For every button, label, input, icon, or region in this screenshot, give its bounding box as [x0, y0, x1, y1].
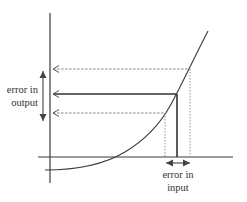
error-propagation-diagram: error in output error in input: [0, 0, 247, 202]
output-error-label-line1: error in: [7, 84, 39, 95]
input-error-label-line2: input: [167, 182, 189, 193]
output-error-label-line2: output: [11, 97, 38, 108]
input-error-label-line1: error in: [162, 169, 194, 180]
function-curve: [45, 31, 208, 170]
